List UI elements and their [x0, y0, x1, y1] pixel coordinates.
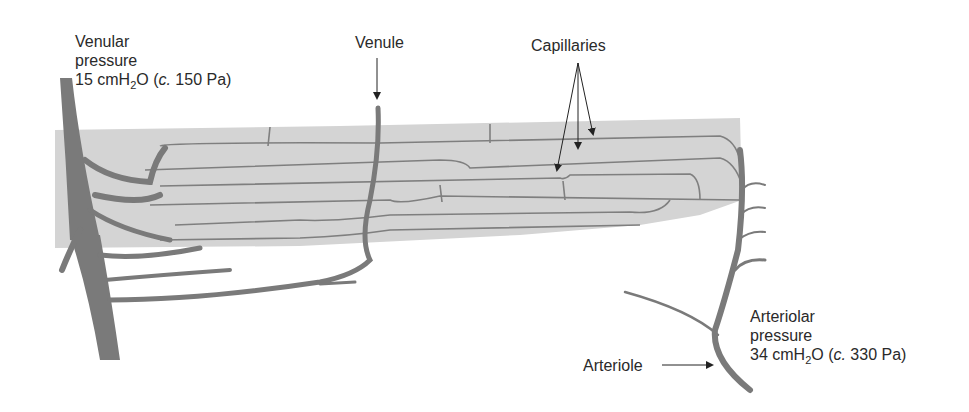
- venular-pressure-line1: Venular: [75, 32, 231, 51]
- arteriolar-pressure-label: Arteriolar pressure 34 cmH2O (c. 330 Pa): [750, 307, 906, 364]
- venule-label: Venule: [355, 33, 404, 52]
- venular-pressure-line2: pressure: [75, 51, 231, 70]
- arteriolar-pressure-line2: pressure: [750, 326, 906, 345]
- capillary-bed-diagram: Venular pressure 15 cmH2O (c. 150 Pa) Ve…: [0, 0, 969, 412]
- arteriolar-pressure-line1: Arteriolar: [750, 307, 906, 326]
- capillaries-label: Capillaries: [531, 36, 606, 55]
- venular-pressure-label: Venular pressure 15 cmH2O (c. 150 Pa): [75, 32, 231, 89]
- arteriolar-pressure-value: 34 cmH2O (c. 330 Pa): [750, 345, 906, 364]
- venular-pressure-value: 15 cmH2O (c. 150 Pa): [75, 70, 231, 89]
- arteriole-label: Arteriole: [583, 356, 643, 375]
